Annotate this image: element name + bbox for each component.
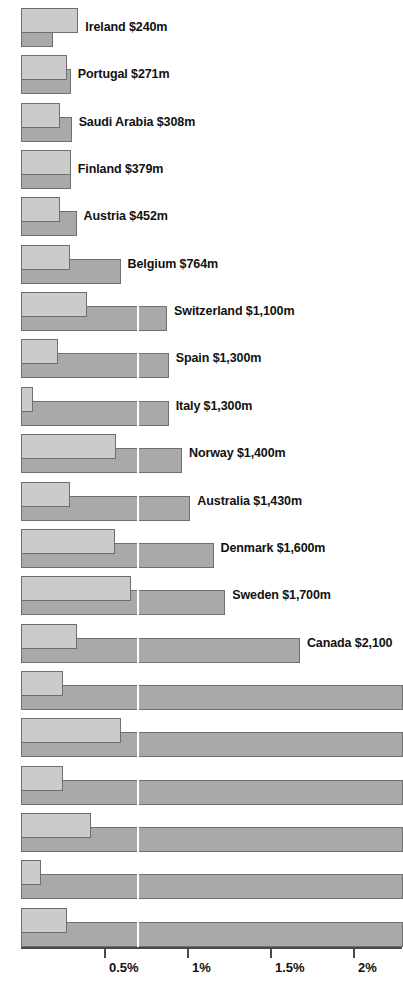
bar-segment-dark xyxy=(21,922,403,947)
bar-segment-light xyxy=(21,150,71,175)
bar-segment-light xyxy=(21,624,77,649)
x-axis-tick-mark xyxy=(270,949,272,958)
bar-segment-light xyxy=(21,718,121,743)
bar-segment-light xyxy=(21,434,116,459)
x-axis-tick-label: 2% xyxy=(358,960,377,975)
x-axis-line xyxy=(21,947,402,949)
bar-row-label: Portugal $271m xyxy=(78,67,170,81)
bar-row-label: Austria $452m xyxy=(84,209,168,223)
bar-segment-light xyxy=(21,387,33,412)
bar-segment-light xyxy=(21,8,78,33)
x-axis-tick-label: 0.5% xyxy=(109,960,139,975)
bar-row-label: Denmark $1,600m xyxy=(221,541,326,555)
vertical-guide-line xyxy=(137,0,139,988)
bar-row-label: Italy $1,300m xyxy=(176,399,253,413)
bar-segment-light xyxy=(21,339,58,364)
bar-segment-light xyxy=(21,245,70,270)
bar-row-label: Saudi Arabia $308m xyxy=(79,115,196,129)
bar-row-label: Finland $379m xyxy=(78,162,164,176)
bar-segment-dark xyxy=(21,685,403,710)
bar-segment-light xyxy=(21,671,63,696)
bar-segment-light xyxy=(21,55,67,80)
bar-segment-light xyxy=(21,482,70,507)
bar-row-label: Australia $1,430m xyxy=(197,494,302,508)
x-axis-tick-label: 1% xyxy=(192,960,211,975)
x-axis-tick-mark xyxy=(104,949,106,958)
bar-segment-light xyxy=(21,576,131,601)
bar-row-label: Canada $2,100 xyxy=(307,636,393,650)
bar-row-label: Ireland $240m xyxy=(85,20,167,34)
x-axis-tick-mark xyxy=(353,949,355,958)
bar-segment-light xyxy=(21,860,41,885)
bar-segment-light xyxy=(21,197,60,222)
bar-segment-light xyxy=(21,529,115,554)
bar-row-label: Switzerland $1,100m xyxy=(174,304,294,318)
bar-segment-dark xyxy=(21,780,403,805)
bar-row-label: Norway $1,400m xyxy=(189,446,286,460)
bar-segment-light xyxy=(21,103,60,128)
x-axis-tick-mark xyxy=(187,949,189,958)
bar-segment-light xyxy=(21,292,87,317)
bar-segment-dark xyxy=(21,874,403,899)
x-axis-tick-label: 1.5% xyxy=(275,960,305,975)
bar-segment-light xyxy=(21,908,67,933)
bar-row-label: Belgium $764m xyxy=(128,257,218,271)
bar-segment-dark xyxy=(21,401,169,426)
bar-segment-light xyxy=(21,813,91,838)
bar-row-label: Spain $1,300m xyxy=(176,351,262,365)
bar-segment-light xyxy=(21,766,63,791)
bar-row-label: Sweden $1,700m xyxy=(232,588,331,602)
